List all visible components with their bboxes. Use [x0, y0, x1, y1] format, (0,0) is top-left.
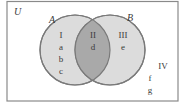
region-i-label: I — [60, 30, 63, 40]
region-i-element: c — [59, 66, 63, 76]
set-a-label: A — [48, 14, 56, 25]
set-b-label: B — [127, 12, 133, 23]
region-i-element: b — [59, 54, 64, 64]
region-ii-element: d — [91, 42, 96, 52]
universe-label: U — [14, 6, 22, 17]
region-iii-element: e — [121, 42, 125, 52]
region-iii-label: III — [119, 30, 128, 40]
region-ii-label: II — [90, 30, 96, 40]
region-iv-element: g — [148, 85, 153, 95]
region-iv-element: f — [149, 73, 152, 83]
region-i-element: a — [59, 42, 63, 52]
region-iv-label: IV — [158, 61, 168, 71]
venn-diagram: U A B I a b c II d III e IV f g — [0, 0, 185, 107]
